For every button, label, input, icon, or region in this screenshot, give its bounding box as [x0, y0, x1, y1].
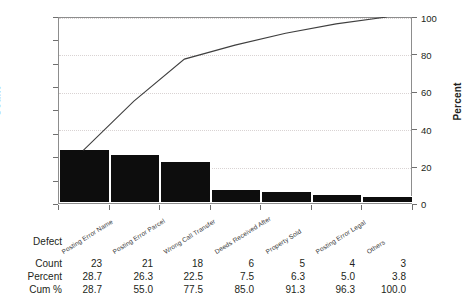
x-tickmark	[260, 205, 261, 210]
cell-percent-2: 22.5	[161, 271, 203, 282]
row-label-percent: Percent	[4, 271, 62, 282]
cell-count-3: 6	[212, 258, 254, 269]
category-label-6: Others	[365, 238, 386, 255]
y-tickmark	[53, 40, 58, 41]
cell-cum-2: 77.5	[161, 284, 203, 295]
cell-cum-5: 96.3	[313, 284, 355, 295]
cell-count-0: 23	[60, 258, 102, 269]
y2-tickmark	[412, 54, 417, 55]
y-axis-title-count: Count	[0, 87, 2, 117]
cell-count-6: 3	[364, 258, 406, 269]
category-label-5: Posting Error Legal	[314, 219, 367, 255]
cell-count-5: 4	[313, 258, 355, 269]
x-tickmark	[159, 205, 160, 210]
category-label-1: Posting Error Parcel	[111, 217, 166, 255]
y2-tick-20: 20	[421, 162, 447, 173]
x-tickmark	[412, 205, 413, 210]
y2-tickmark	[412, 17, 417, 18]
y-tickmark	[53, 17, 58, 18]
cell-percent-5: 5.0	[313, 271, 355, 282]
y-tickmark	[53, 87, 58, 88]
y-tickmark	[53, 134, 58, 135]
y2-axis-title-percent: Percent	[452, 82, 463, 120]
x-tickmark	[210, 205, 211, 210]
y-tickmark	[53, 157, 58, 158]
y2-tickmark	[412, 92, 417, 93]
y-tickmark	[53, 181, 58, 182]
x-tickmark	[311, 205, 312, 210]
cell-percent-4: 6.3	[263, 271, 305, 282]
pareto-chart: Count 80 70 60 50 40 30 20 10 0 Percent …	[0, 0, 475, 305]
category-label-3: Deeds Received After	[213, 215, 272, 255]
row-label-defect: Defect	[4, 236, 62, 247]
y2-tick-80: 80	[421, 50, 447, 61]
category-label-2: Wrong Call Transfer	[162, 217, 216, 255]
cell-count-2: 18	[161, 258, 203, 269]
y2-tick-100: 100	[421, 13, 447, 24]
cell-percent-0: 28.7	[60, 271, 102, 282]
cell-count-1: 21	[111, 258, 153, 269]
cell-cum-0: 28.7	[60, 284, 102, 295]
y2-tick-60: 60	[421, 87, 447, 98]
y2-tickmark	[412, 129, 417, 130]
x-tickmark	[361, 205, 362, 210]
row-label-count: Count	[4, 258, 62, 269]
category-label-4: Property Sold	[264, 228, 302, 255]
cell-cum-3: 85.0	[212, 284, 254, 295]
y2-tickmark	[412, 167, 417, 168]
cell-cum-4: 91.3	[263, 284, 305, 295]
y-tickmark	[53, 110, 58, 111]
cumulative-percent-line	[58, 17, 412, 204]
cell-cum-6: 100.0	[364, 284, 406, 295]
cell-percent-6: 3.8	[364, 271, 406, 282]
cell-cum-1: 55.0	[111, 284, 153, 295]
y2-tick-40: 40	[421, 125, 447, 136]
y-tickmark	[53, 64, 58, 65]
cell-percent-1: 26.3	[111, 271, 153, 282]
row-label-cum: Cum %	[4, 284, 62, 295]
y2-tick-0: 0	[421, 199, 447, 210]
x-tickmark	[109, 205, 110, 210]
x-tickmark	[58, 205, 59, 210]
category-label-0: Posting Error Name	[60, 218, 114, 255]
cell-count-4: 5	[263, 258, 305, 269]
cell-percent-3: 7.5	[212, 271, 254, 282]
